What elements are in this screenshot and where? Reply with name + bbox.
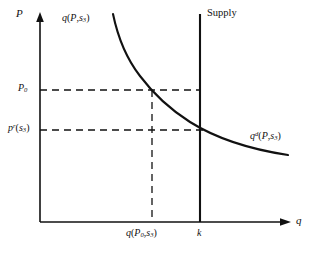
y-tick-label-reservation-price: pr(s3)	[8, 123, 29, 134]
x-axis-arrowhead	[280, 218, 291, 226]
y-axis-label: P	[16, 8, 23, 19]
supply-label: Supply	[207, 8, 237, 19]
y-tick-label-p0: P0	[18, 83, 27, 94]
x-tick-label-capacity: k	[197, 228, 201, 238]
demand-right-close-paren: )	[277, 130, 280, 141]
x-axis-label: q	[296, 215, 302, 226]
y-axis	[36, 12, 44, 222]
qp0-close-paren: )	[153, 227, 156, 238]
demand-curve-right-label: qd(P,s3)	[250, 131, 281, 142]
x-axis	[40, 218, 291, 226]
y-axis-arrowhead	[36, 12, 44, 22]
demand-curve-top-label: q(P,s3)	[62, 13, 90, 24]
p0-subscript: 0	[24, 86, 27, 93]
supply-demand-figure: P q Supply q(P,s3) qd(P,s3) P0 pr(s3) q(…	[0, 0, 312, 255]
pr-close-paren: )	[26, 122, 29, 133]
x-tick-label-quantity-at-p0: q(P0,s3)	[126, 228, 157, 239]
diagram-canvas	[0, 0, 312, 255]
demand-top-close-paren: )	[86, 12, 89, 23]
